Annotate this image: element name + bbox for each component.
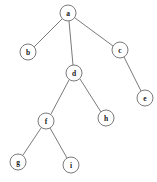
tree-node-circle-h	[98, 110, 114, 126]
tree-edge-d-f	[51, 80, 69, 114]
tree-node-circle-g	[10, 154, 26, 170]
tree-node-i: i	[63, 157, 79, 173]
node-group: abcdefhgi	[10, 5, 153, 173]
tree-edge-c-e	[124, 57, 141, 91]
tree-node-d: d	[66, 65, 82, 81]
tree-edge-f-g	[23, 128, 41, 155]
tree-node-circle-e	[137, 90, 153, 106]
tree-diagram-canvas: abcdefhgi	[0, 0, 157, 182]
tree-edge-d-h	[80, 79, 101, 112]
tree-edge-f-i	[50, 128, 67, 158]
tree-node-c: c	[112, 42, 128, 58]
tree-edge-a-c	[75, 18, 113, 46]
tree-node-circle-a	[60, 5, 76, 21]
tree-node-a: a	[60, 5, 76, 21]
tree-edge-a-d	[69, 21, 73, 65]
tree-node-h: h	[98, 110, 114, 126]
tree-node-circle-b	[20, 44, 36, 60]
tree-node-f: f	[38, 113, 54, 129]
tree-diagram: abcdefhgi	[0, 0, 157, 182]
tree-node-g: g	[10, 154, 26, 170]
tree-node-circle-c	[112, 42, 128, 58]
edge-group	[23, 18, 141, 158]
tree-node-circle-f	[38, 113, 54, 129]
tree-edge-a-b	[34, 19, 62, 47]
tree-node-b: b	[20, 44, 36, 60]
tree-node-e: e	[137, 90, 153, 106]
tree-node-circle-d	[66, 65, 82, 81]
tree-node-circle-i	[63, 157, 79, 173]
